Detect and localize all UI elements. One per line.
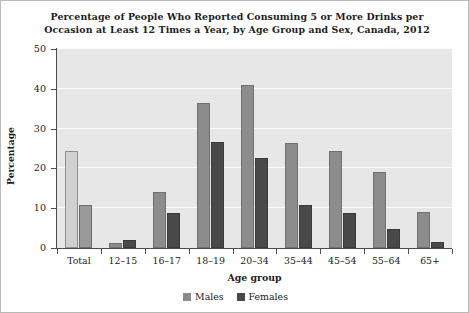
legend-swatch-males (183, 293, 191, 301)
legend-swatch-females (237, 293, 245, 301)
x-axis-tick (101, 249, 102, 254)
x-axis-tick (57, 249, 58, 254)
y-axis-tick-label: 40 (6, 83, 46, 94)
y-axis-tick-label: 0 (6, 242, 46, 253)
bar-males (197, 103, 210, 248)
bar-females (79, 205, 92, 248)
y-axis-tick-label: 50 (6, 43, 46, 54)
x-axis-tick (189, 249, 190, 254)
chart-title-line-2: Occasion at Least 12 Times a Year, by Ag… (41, 23, 433, 36)
legend-item-males: Males (183, 291, 224, 302)
legend-label-females: Females (249, 291, 288, 302)
gridline (57, 88, 452, 89)
y-axis-tick-label: 30 (6, 123, 46, 134)
bar-males (65, 151, 78, 249)
chart-title: Percentage of People Who Reported Consum… (41, 10, 433, 36)
bar-males (153, 192, 166, 248)
y-axis-tick (51, 248, 56, 249)
x-axis-tick (145, 249, 146, 254)
x-axis-tick (408, 249, 409, 254)
bar-females (211, 142, 224, 248)
bar-males (241, 85, 254, 248)
y-axis-tick (51, 49, 56, 50)
x-axis-title: Age group (57, 272, 452, 283)
bar-males (285, 143, 298, 248)
chart-legend: Males Females (1, 291, 469, 302)
x-axis-tick (276, 249, 277, 254)
legend-label-males: Males (195, 291, 224, 302)
x-axis-tick (364, 249, 365, 254)
x-axis-tick-label: 65+ (398, 255, 462, 266)
bar-females (255, 158, 268, 248)
y-axis-tick (51, 129, 56, 130)
chart-figure: Percentage of People Who Reported Consum… (0, 0, 469, 313)
gridline (57, 48, 452, 49)
y-axis-spine (56, 48, 57, 249)
y-axis-tick (51, 168, 56, 169)
x-axis-tick (320, 249, 321, 254)
y-axis-tick (51, 208, 56, 209)
bar-females (123, 240, 136, 248)
gridline (57, 128, 452, 129)
bar-females (343, 213, 356, 248)
bar-males (373, 172, 386, 248)
bar-males (417, 212, 430, 248)
bar-females (167, 213, 180, 248)
y-axis-tick (51, 89, 56, 90)
chart-title-line-1: Percentage of People Who Reported Consum… (41, 10, 433, 23)
x-axis-spine (56, 248, 452, 249)
bar-males (329, 151, 342, 248)
x-axis-tick (233, 249, 234, 254)
plot-area (57, 49, 452, 248)
y-axis-tick-label: 20 (6, 162, 46, 173)
bar-females (299, 205, 312, 248)
legend-item-females: Females (237, 291, 288, 302)
y-axis-tick-label: 10 (6, 202, 46, 213)
bar-females (387, 229, 400, 248)
x-axis-tick (452, 249, 453, 254)
